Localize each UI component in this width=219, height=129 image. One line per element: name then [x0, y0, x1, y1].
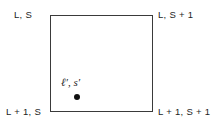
cell-boundary-square — [50, 15, 153, 112]
grid-cell-diagram: L, S L, S + 1 L + 1, S L + 1, S + 1 ℓ′, … — [0, 0, 219, 129]
interior-point-label: ℓ′, s′ — [61, 77, 80, 88]
interior-point-dot-icon — [74, 94, 80, 100]
corner-label-top-left: L, S — [14, 10, 32, 20]
corner-label-bottom-right: L + 1, S + 1 — [158, 107, 210, 117]
corner-label-bottom-left: L + 1, S — [6, 107, 41, 117]
corner-label-top-right: L, S + 1 — [158, 10, 193, 20]
